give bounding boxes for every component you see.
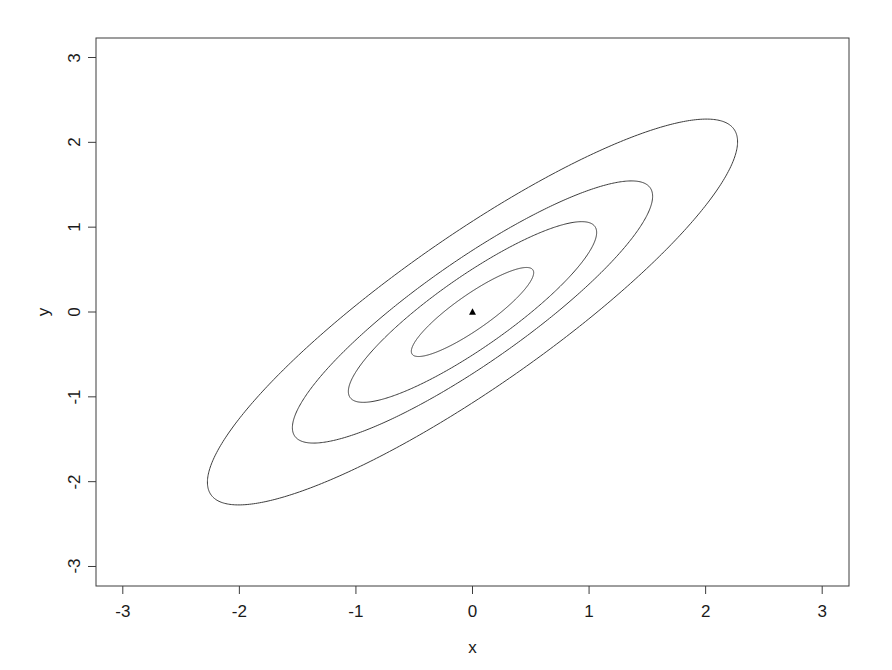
- y-tick-label: 2: [66, 138, 83, 147]
- y-tick-label: -2: [66, 474, 83, 489]
- center-triangle-marker: [469, 308, 476, 314]
- x-tick-label: -2: [232, 603, 247, 620]
- y-tick-label: -1: [66, 389, 83, 404]
- y-tick-label: -3: [66, 559, 83, 574]
- x-tick-label: -3: [115, 603, 130, 620]
- x-tick-label: 0: [468, 603, 477, 620]
- x-tick-label: -1: [348, 603, 363, 620]
- x-axis-title: x: [468, 639, 477, 656]
- x-tick-label: 1: [584, 603, 593, 620]
- y-tick-label: 1: [66, 222, 83, 231]
- contour-plot-canvas: [0, 0, 892, 670]
- contour-plot-figure: -3-2-10123 -3-2-10123 x y: [0, 0, 892, 670]
- y-axis-title: y: [35, 308, 52, 317]
- center-marker: [469, 308, 476, 314]
- y-tick-label: 0: [66, 307, 83, 316]
- x-tick-label: 3: [817, 603, 826, 620]
- x-tick-label: 2: [701, 603, 710, 620]
- axis-ticks: [88, 58, 822, 594]
- y-tick-label: 3: [66, 53, 83, 62]
